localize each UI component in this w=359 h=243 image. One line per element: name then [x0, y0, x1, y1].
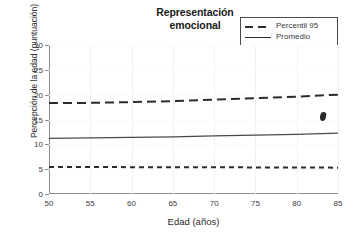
- y-axis-tick-label: 25: [34, 65, 43, 74]
- legend-label-percentil-95: Percentil 95: [276, 21, 318, 31]
- y-axis-tick-label: 20: [34, 90, 43, 99]
- plot-area: 051015202530 5055606570758085: [49, 45, 338, 194]
- x-axis-tick-label: 60: [127, 199, 136, 208]
- x-axis-tick-label: 50: [45, 199, 54, 208]
- y-axis-tick-label: 10: [34, 140, 43, 149]
- x-axis-label: Edad (años): [49, 216, 338, 227]
- series-line-promedio: [49, 133, 338, 138]
- legend-item-percentil-95: Percentil 95: [245, 21, 333, 32]
- solid-line-icon: [245, 32, 271, 42]
- x-axis-tick-label: 85: [334, 199, 343, 208]
- legend-label-promedio: Promedio: [276, 32, 310, 42]
- y-axis-tick-label: 15: [34, 115, 43, 124]
- series-line-percentil-5: [49, 167, 338, 168]
- series-line-percentil-95: [49, 95, 338, 103]
- x-axis-tick-label: 75: [251, 199, 260, 208]
- vertical-gridline: [338, 45, 339, 194]
- legend-item-promedio: Promedio: [245, 32, 333, 43]
- x-axis-tick-label: 65: [168, 199, 177, 208]
- x-axis-tick-label: 55: [86, 199, 95, 208]
- x-axis-tick-label: 70: [210, 199, 219, 208]
- dashed-long-line-icon: [245, 21, 271, 31]
- series-svg: [49, 45, 338, 194]
- data-series-layer: [49, 45, 338, 194]
- y-axis-tick-label: 0: [39, 190, 43, 199]
- y-axis-tick-label: 5: [39, 165, 43, 174]
- x-axis-tick-label: 80: [292, 199, 301, 208]
- y-axis-tick-label: 30: [34, 41, 43, 50]
- y-axis-tick-mark: [45, 194, 49, 195]
- y-axis-label: Percepción de la edad (puntuación): [29, 0, 39, 151]
